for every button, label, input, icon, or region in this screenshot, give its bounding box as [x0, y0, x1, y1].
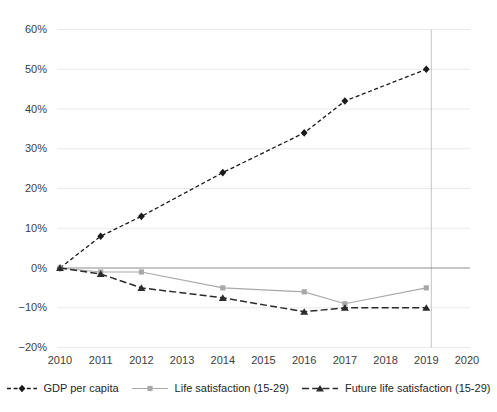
chart-legend: GDP per capita Life satisfaction (15-29)…	[0, 377, 497, 399]
x-tick-label-2016: 2016	[292, 354, 316, 366]
y-tick-label-0: 0%	[31, 262, 47, 274]
series-future-life-satisfaction-15-29-line	[60, 268, 426, 312]
series-life-satisfaction-15-29-marker-2019	[424, 285, 429, 290]
y-tick-label--20: −20%	[19, 341, 48, 353]
y-tick-label-30: 30%	[25, 142, 47, 154]
x-tick-label-2018: 2018	[373, 354, 397, 366]
y-tick-label-60: 60%	[25, 23, 47, 35]
legend-label-life-satisfaction: Life satisfaction (15-29)	[175, 382, 289, 394]
x-tick-label-2019: 2019	[414, 354, 438, 366]
y-tick-label-20: 20%	[25, 182, 47, 194]
x-tick-label-2012: 2012	[129, 354, 153, 366]
x-tick-label-2013: 2013	[170, 354, 194, 366]
future-life-satisfaction-line-sample-icon	[302, 383, 338, 394]
legend-item-gdp-per-capita: GDP per capita	[7, 382, 119, 394]
legend-label-future-life-satisfaction: Future life satisfaction (15-29)	[345, 382, 491, 394]
gdp-per-capita-line-sample-icon	[7, 383, 37, 394]
x-tick-label-2015: 2015	[251, 354, 275, 366]
y-tick-label--10: −10%	[19, 301, 48, 313]
legend-label-gdp-per-capita: GDP per capita	[44, 382, 119, 394]
series-life-satisfaction-15-29-marker-2014	[220, 285, 225, 290]
legend-item-future-life-satisfaction: Future life satisfaction (15-29)	[302, 382, 491, 394]
series-life-satisfaction-15-29-marker-2012	[139, 269, 144, 274]
y-tick-label-50: 50%	[25, 63, 47, 75]
series-gdp-per-capita-marker-2014	[219, 169, 226, 177]
x-tick-label-2017: 2017	[333, 354, 357, 366]
life-satisfaction-line-sample-icon	[132, 383, 168, 394]
series-gdp-per-capita-marker-2017	[342, 97, 349, 105]
line-chart-plot-area: 60%50%40%30%20%10%0%−10%−20%201020112012…	[0, 0, 497, 412]
series-gdp-per-capita-marker-2019	[423, 65, 430, 73]
x-tick-label-2014: 2014	[211, 354, 235, 366]
series-gdp-per-capita-marker-2016	[301, 129, 308, 137]
series-gdp-per-capita	[57, 65, 430, 271]
legend-swatch-diamond-icon	[18, 384, 25, 392]
series-gdp-per-capita-marker-2012	[138, 213, 145, 221]
x-tick-label-2011: 2011	[89, 354, 113, 366]
legend-swatch-square-icon	[147, 385, 152, 390]
y-tick-label-10: 10%	[25, 222, 47, 234]
line-chart: 60%50%40%30%20%10%0%−10%−20%201020112012…	[0, 0, 497, 412]
x-tick-label-2020: 2020	[455, 354, 479, 366]
series-life-satisfaction-15-29	[57, 265, 429, 306]
legend-item-life-satisfaction: Life satisfaction (15-29)	[132, 382, 289, 394]
x-tick-label-2010: 2010	[48, 354, 72, 366]
y-tick-label-40: 40%	[25, 103, 47, 115]
series-life-satisfaction-15-29-line	[60, 268, 426, 304]
series-gdp-per-capita-line	[60, 69, 426, 268]
series-life-satisfaction-15-29-marker-2016	[302, 289, 307, 294]
